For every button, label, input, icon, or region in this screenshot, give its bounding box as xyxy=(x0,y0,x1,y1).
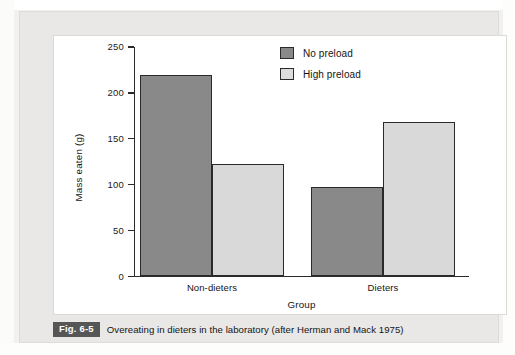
bar-dieters-high-preload xyxy=(383,122,455,276)
legend-item-high-preload: High preload xyxy=(280,65,430,83)
x-axis-title: Group xyxy=(134,299,469,310)
legend-item-no-preload: No preload xyxy=(280,44,430,62)
y-axis-title: Mass eaten (g) xyxy=(73,103,84,233)
y-tick-200 xyxy=(128,92,134,93)
y-axis-line xyxy=(134,47,135,277)
page-edge-top xyxy=(0,0,515,10)
page-edge-left xyxy=(0,0,14,355)
plot-card: 050100150200250 Non-dietersDieters Mass … xyxy=(53,35,507,315)
legend-swatch-icon xyxy=(280,68,294,80)
y-tick-label-0: 0 xyxy=(119,272,124,282)
figure-panel: 050100150200250 Non-dietersDieters Mass … xyxy=(20,12,498,342)
x-group-label-non-dieters: Non-dieters xyxy=(140,282,284,293)
figure-caption-text: Overeating in dieters in the laboratory … xyxy=(107,324,404,335)
x-group-label-dieters: Dieters xyxy=(311,282,455,293)
figure-caption: Fig. 6-5 Overeating in dieters in the la… xyxy=(53,322,505,337)
y-tick-label-50: 50 xyxy=(113,226,124,236)
legend-label: No preload xyxy=(303,48,353,59)
y-tick-label-150: 150 xyxy=(108,134,124,144)
bar-dieters-no-preload xyxy=(311,187,383,276)
bar-non-dieters-high-preload xyxy=(212,164,284,277)
y-tick-250 xyxy=(128,46,134,47)
y-tick-label-250: 250 xyxy=(108,42,124,52)
y-tick-label-200: 200 xyxy=(108,88,124,98)
y-tick-0 xyxy=(128,276,134,277)
y-tick-150 xyxy=(128,138,134,139)
figure-number-badge: Fig. 6-5 xyxy=(53,322,100,337)
bar-chart: 050100150200250 Non-dietersDieters Mass … xyxy=(54,36,506,314)
y-tick-label-100: 100 xyxy=(108,180,124,190)
page-edge-bottom xyxy=(0,343,515,355)
legend-swatch-icon xyxy=(280,47,294,59)
legend-label: High preload xyxy=(303,69,361,80)
bar-non-dieters-no-preload xyxy=(140,75,212,276)
y-tick-50 xyxy=(128,230,134,231)
scanned-page: 050100150200250 Non-dietersDieters Mass … xyxy=(0,0,515,355)
y-tick-100 xyxy=(128,184,134,185)
chart-legend: No preloadHigh preload xyxy=(280,44,430,86)
